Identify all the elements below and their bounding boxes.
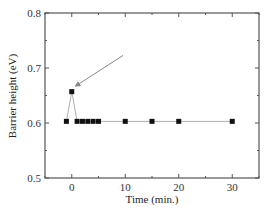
x-tick-label: 10 [120,181,132,193]
x-tick-label: 30 [227,181,239,193]
y-axis: 0.50.60.70.8 [27,7,259,184]
data-point-marker [69,89,74,94]
y-tick-label: 0.8 [27,7,41,19]
data-point-marker [230,119,235,124]
chart: 0102030 0.50.60.70.8 Time (min.) Barrier… [0,0,269,213]
data-point-marker [75,119,80,124]
plot-area [45,13,259,178]
data-point-marker [96,119,101,124]
x-axis-label: Time (min.) [126,193,179,206]
plot-frame [45,13,259,178]
y-tick-label: 0.6 [27,117,41,129]
data-point-marker [80,119,85,124]
y-axis-label: Barrier height (eV) [6,54,19,139]
x-tick-label: 20 [173,181,185,193]
y-tick-label: 0.5 [27,172,41,184]
x-tick-label: 0 [69,181,75,193]
data-point-marker [85,119,90,124]
data-point-marker [123,119,128,124]
series-line [66,92,232,122]
annotation-arrow [75,55,123,86]
data-point-marker [176,119,181,124]
data-point-marker [64,119,69,124]
x-axis: 0102030 [45,13,259,193]
y-tick-label: 0.7 [27,62,41,74]
data-point-marker [150,119,155,124]
data-point-marker [91,119,96,124]
